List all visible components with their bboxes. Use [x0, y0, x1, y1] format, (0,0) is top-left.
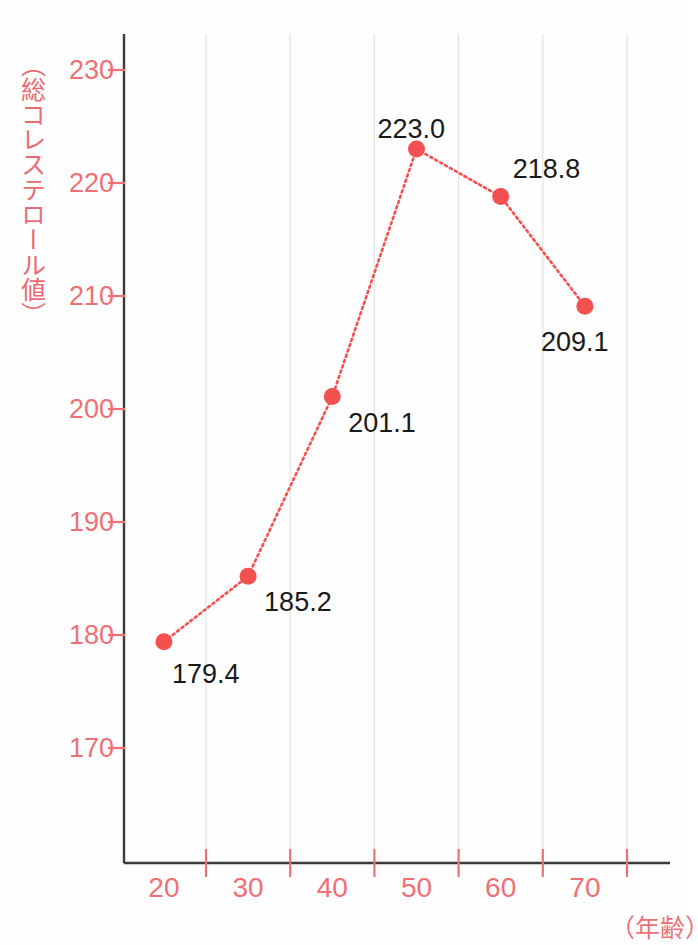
value-label-30: 185.2: [264, 587, 332, 618]
y-tick-label-180: 180: [48, 620, 114, 651]
x-tick-label-60: 60: [485, 872, 516, 904]
value-label-20: 179.4: [172, 659, 240, 690]
x-tick-label-40: 40: [317, 872, 348, 904]
value-label-70: 209.1: [541, 327, 609, 358]
value-label-40: 201.1: [348, 408, 416, 439]
x-tick-label-20: 20: [148, 872, 179, 904]
x-axis-title: （年齢）: [610, 908, 698, 944]
y-tick-label-200: 200: [48, 394, 114, 425]
data-point-20: [155, 633, 172, 650]
y-tick-label-190: 190: [48, 507, 114, 538]
y-tick-label-210: 210: [48, 281, 114, 312]
x-tick-label-50: 50: [401, 872, 432, 904]
y-tick-label-220: 220: [48, 168, 114, 199]
data-point-30: [240, 568, 257, 585]
y-tick-label-170: 170: [48, 733, 114, 764]
x-tick-label-70: 70: [569, 872, 600, 904]
data-point-40: [324, 388, 341, 405]
value-label-50: 223.0: [378, 114, 446, 145]
value-label-60: 218.8: [513, 154, 581, 185]
x-tick-label-30: 30: [233, 872, 264, 904]
data-point-70: [576, 298, 593, 315]
y-tick-label-230: 230: [48, 55, 114, 86]
data-point-60: [492, 188, 509, 205]
